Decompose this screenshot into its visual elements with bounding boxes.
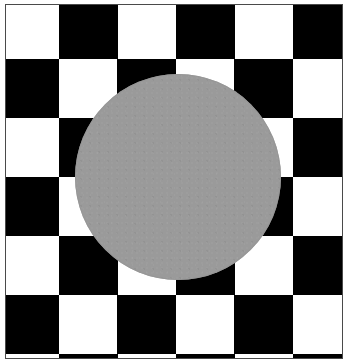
pattern-clip [6,5,342,358]
disc-texture-overlay [75,74,281,280]
disc-rim [75,74,281,280]
gray-disc [75,74,281,280]
frame-border [5,4,343,359]
figure-root [0,0,350,359]
